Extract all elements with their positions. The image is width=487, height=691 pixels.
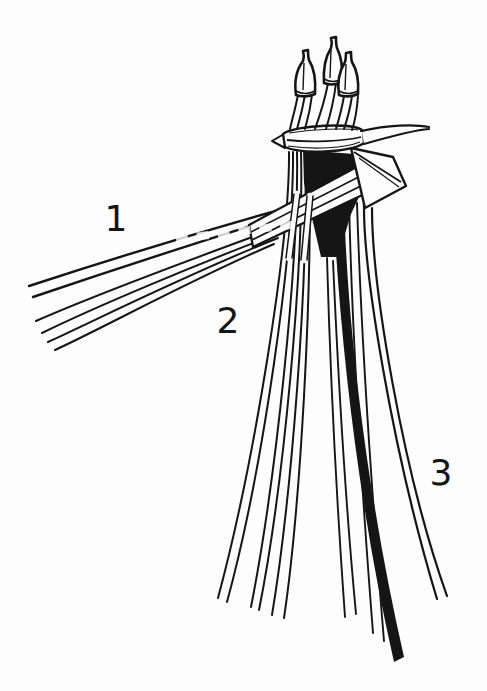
labels: 1 2 3 xyxy=(105,198,453,493)
label-strand-group-3: 3 xyxy=(430,452,453,493)
label-strand-group-2: 2 xyxy=(217,300,240,341)
straw-strand-line xyxy=(372,208,447,596)
straw-plaiting-illustration: 1 2 3 xyxy=(0,0,487,691)
stalk-line xyxy=(352,96,358,130)
straw-strand-line xyxy=(29,207,290,286)
wheat-head-detail-line xyxy=(330,50,331,78)
stalk-line xyxy=(290,95,298,129)
label-strand-group-1: 1 xyxy=(105,198,128,239)
wheat-head-outline xyxy=(295,50,315,96)
stalk-line xyxy=(344,96,352,129)
stalk-line xyxy=(297,95,305,129)
fold-flap-face xyxy=(351,148,406,208)
tie-band xyxy=(272,125,429,151)
fold-flap xyxy=(351,148,406,208)
stalk-line xyxy=(315,83,328,129)
wheat-head-left xyxy=(295,50,315,96)
wheat-head-detail-line xyxy=(345,64,346,90)
stalk-line xyxy=(336,96,344,129)
straw-strand-line xyxy=(55,244,274,350)
stalk-line xyxy=(305,95,312,129)
wheat-head-detail-line xyxy=(303,63,304,90)
illustration-page: 1 2 3 xyxy=(0,0,487,691)
